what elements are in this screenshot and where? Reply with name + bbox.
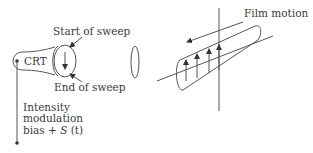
modulation-label: modulation [23,112,83,124]
film-motion-arrow [187,22,243,42]
sweep-arrow-head [62,64,68,70]
start-of-sweep-pointer [70,37,82,47]
end-of-sweep-label: End of sweep [54,81,126,93]
start-of-sweep-label: Start of sweep [53,25,131,37]
film-guide-line [157,36,273,81]
film-motion-label: Film motion [244,7,308,19]
crt-label: CRT [24,55,47,67]
film-strip [157,8,273,111]
bias-signal-label: bias + S (t) [23,124,83,136]
crt-film-recorder-diagram: CRT Start of sweep End of sweep Intensit… [0,0,313,153]
input-terminal-dot [15,141,19,145]
lens-icon [131,46,139,78]
